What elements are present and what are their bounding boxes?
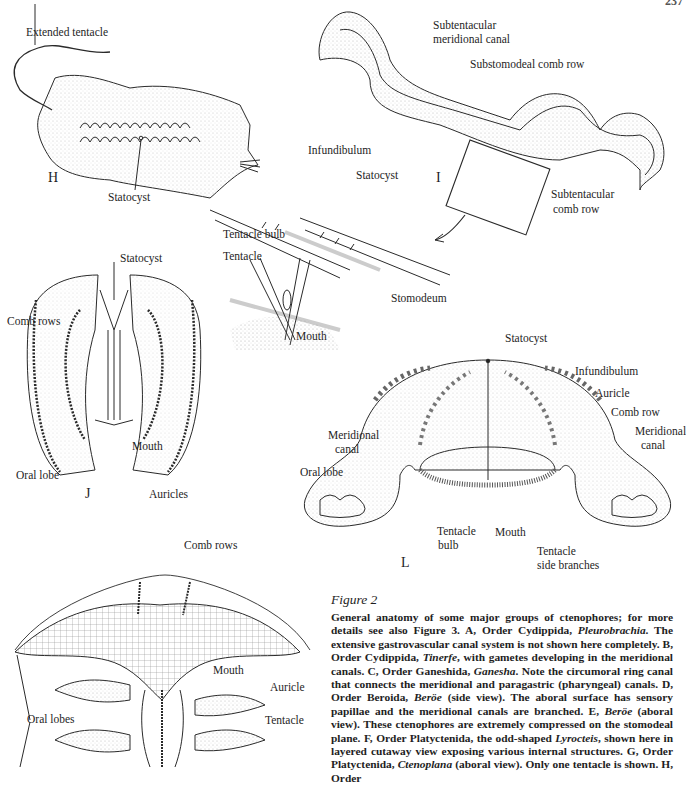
label-statocyst-h: Statocyst xyxy=(108,191,150,204)
figure-letter-j: J xyxy=(85,486,90,502)
label-comb-rows-k: Comb rows xyxy=(184,539,237,552)
taxon-name: Tinerfe xyxy=(423,651,457,663)
label-statocyst-l: Statocyst xyxy=(505,332,547,345)
figure-letter-h: H xyxy=(48,170,58,186)
label-auricle-k: Auricle xyxy=(270,681,304,694)
figure-l-drawing xyxy=(304,359,670,526)
label-statocyst-i: Statocyst xyxy=(356,169,398,182)
label-tentacle-bulb-l: Tentacle xyxy=(437,525,476,538)
taxon-name: Lyrocteis xyxy=(555,732,598,744)
label-subtentacular-meridional-canal-2: meridional canal xyxy=(433,33,510,46)
label-infundibulum-i: Infundibulum xyxy=(308,144,371,157)
label-meridional-canal-left: Meridional xyxy=(328,429,379,442)
label-tentacle-side-branches: Tentacle xyxy=(537,545,576,558)
label-oral-lobe-j: Oral lobe xyxy=(16,469,59,482)
label-subtentacular-meridional-canal: Subtentacular xyxy=(433,19,496,32)
label-infundibulum-l: Infundibulum xyxy=(575,365,638,378)
figure-caption-title: Figure 2 xyxy=(331,592,377,608)
figure-letter-l: L xyxy=(401,555,410,571)
label-substomodeal-comb-row: Substomodeal comb row xyxy=(470,58,584,71)
label-subtentacular-comb-row: Subtentacular xyxy=(551,188,614,201)
taxon-name: Ctenoplana xyxy=(398,758,452,770)
taxon-name: Ganesha xyxy=(474,665,516,677)
figure-caption-body: General anatomy of some major groups of … xyxy=(331,611,673,785)
label-tentacle-i: Tentacle xyxy=(223,250,262,263)
taxon-name: Beröe xyxy=(604,705,632,717)
label-meridional-canal-right-2: canal xyxy=(641,439,665,452)
label-tentacle-bulb-l-2: bulb xyxy=(438,539,458,552)
label-auricles: Auricles xyxy=(149,488,188,501)
figure-k-drawing xyxy=(15,575,310,767)
label-statocyst-j: Statocyst xyxy=(120,252,162,265)
figure-letter-i: I xyxy=(436,170,441,186)
label-tentacle-bulb: Tentacle bulb xyxy=(223,228,285,241)
label-subtentacular-comb-row-2: comb row xyxy=(553,203,599,216)
label-oral-lobes: Oral lobes xyxy=(27,713,75,726)
label-oral-lobe-l: Oral lobe xyxy=(300,466,343,479)
label-meridional-canal-right: Meridional xyxy=(635,425,686,438)
label-comb-row-l: Comb row xyxy=(611,406,660,419)
label-tentacle-k: Tentacle xyxy=(265,714,304,727)
taxon-name: Pleurobrachia xyxy=(578,624,646,636)
label-comb-rows-j: Comb rows xyxy=(7,315,60,328)
label-meridional-canal-left-2: canal xyxy=(335,443,359,456)
label-extended-tentacle: Extended tentacle xyxy=(26,26,108,39)
figure-j-drawing xyxy=(27,262,201,475)
label-tentacle-side-branches-2: side branches xyxy=(537,559,599,572)
taxon-name: Beröe xyxy=(414,691,442,703)
label-mouth-j: Mouth xyxy=(132,440,163,453)
label-mouth-l: Mouth xyxy=(495,526,526,539)
label-mouth-k: Mouth xyxy=(213,664,244,677)
label-mouth-i: Mouth xyxy=(296,330,327,343)
label-auricle-l: Auricle xyxy=(595,387,629,400)
label-stomodeum: Stomodeum xyxy=(391,292,447,305)
